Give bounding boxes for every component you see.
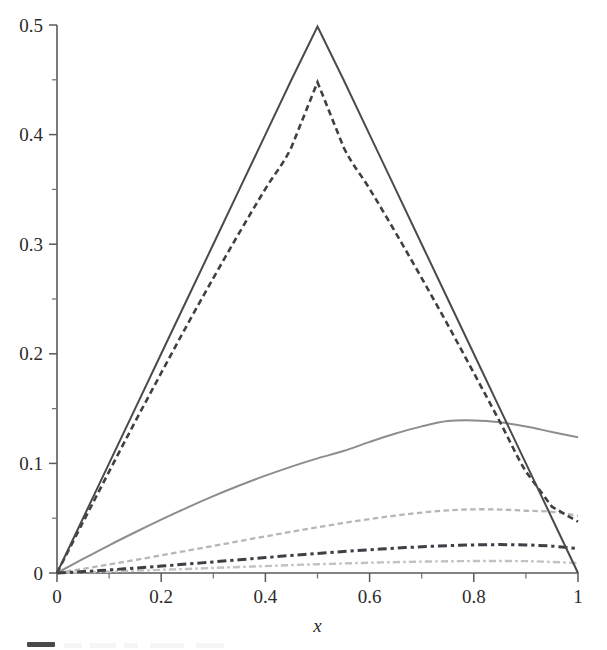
series-2-dashed-dark	[57, 82, 578, 573]
x-tick-label: 0.6	[358, 586, 382, 607]
y-tick-label: 0.5	[19, 15, 43, 36]
legend-row-clipped	[64, 643, 364, 648]
x-axis-title: x	[312, 615, 322, 636]
series-3-solid-gray	[57, 420, 578, 573]
y-tick-label: 0.3	[19, 234, 43, 255]
y-tick-label: 0.1	[19, 453, 43, 474]
x-tick-label: 0.8	[462, 586, 486, 607]
series-6-dash-dot-light-gray	[57, 561, 578, 573]
series-1-triangle-solid-dark	[57, 27, 578, 573]
y-tick-label: 0	[34, 563, 44, 584]
chart-plot-area: 00.10.20.30.40.500.20.40.60.81x	[0, 0, 607, 650]
series-5-dash-dot-dark	[57, 545, 578, 573]
x-tick-label: 0.2	[149, 586, 173, 607]
x-tick-label: 0	[52, 586, 62, 607]
legend-swatch-icon	[27, 642, 55, 647]
axis-spine	[57, 25, 578, 573]
x-tick-label: 1	[573, 586, 583, 607]
y-tick-label: 0.4	[19, 124, 43, 145]
chart-figure: 00.10.20.30.40.500.20.40.60.81x	[0, 0, 607, 650]
x-tick-label: 0.4	[254, 586, 278, 607]
y-tick-label: 0.2	[19, 343, 43, 364]
